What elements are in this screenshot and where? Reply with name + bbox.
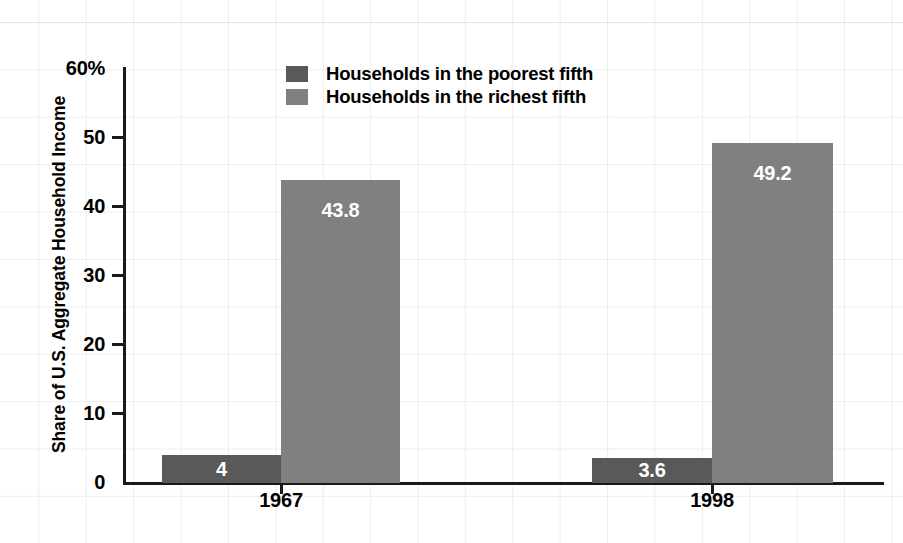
bar-1967-poorest-fifth[interactable]: 4 <box>162 455 281 483</box>
x-axis-label-1967: 1967 <box>201 489 361 512</box>
bar-1998-richest-fifth[interactable]: 49.2 <box>712 143 833 483</box>
y-tick-label-20: 20 <box>45 333 105 356</box>
y-tick-label-30: 30 <box>45 264 105 287</box>
y-axis-tick-labels: 60% 50 40 30 20 10 0 <box>30 0 105 543</box>
bar-1967-richest-fifth[interactable]: 43.8 <box>281 180 400 483</box>
bar-chart-figure: Share of U.S. Aggregate Household Income… <box>0 0 903 543</box>
legend-label-poorest: Households in the poorest fifth <box>326 63 593 85</box>
x-axis-label-1998: 1998 <box>632 489 792 512</box>
legend-item-poorest-fifth[interactable]: Households in the poorest fifth <box>286 62 593 85</box>
y-tick-label-0: 0 <box>45 471 105 494</box>
y-tick-label-40: 40 <box>45 195 105 218</box>
bar-value-1998-poorest: 3.6 <box>592 459 712 482</box>
legend: Households in the poorest fifth Househol… <box>286 62 593 108</box>
legend-item-richest-fifth[interactable]: Households in the richest fifth <box>286 85 593 108</box>
legend-swatch-richest-icon <box>286 89 308 105</box>
plot-area: 4 43.8 3.6 49.2 <box>124 68 884 483</box>
grid-top-edge-line <box>0 22 903 23</box>
bar-1998-poorest-fifth[interactable]: 3.6 <box>592 458 712 483</box>
y-tick-label-50: 50 <box>45 126 105 149</box>
y-tick-label-60: 60% <box>45 57 105 80</box>
bar-value-1998-richest: 49.2 <box>712 162 833 185</box>
bar-value-1967-poorest: 4 <box>162 458 281 481</box>
legend-swatch-poorest-icon <box>286 66 308 82</box>
legend-label-richest: Households in the richest fifth <box>326 86 586 108</box>
y-tick-label-10: 10 <box>45 402 105 425</box>
bar-value-1967-richest: 43.8 <box>281 199 400 222</box>
